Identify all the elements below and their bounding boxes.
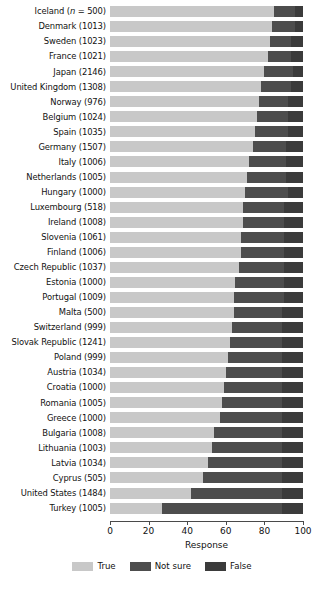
bar-segment-true — [110, 36, 270, 47]
chart-row: Poland (999) — [0, 350, 324, 365]
chart-row: Lithuania (1003) — [0, 440, 324, 455]
bar-segment-false — [295, 21, 303, 32]
x-axis-tick — [187, 521, 188, 525]
bar-segment-not-sure — [261, 81, 292, 92]
bar-segment-true — [110, 307, 234, 318]
bar-segment-not-sure — [162, 503, 282, 514]
chart-bar — [110, 141, 303, 152]
chart-row: Switzerland (999) — [0, 320, 324, 335]
chart-row-label: Luxembourg (518) — [0, 203, 110, 211]
chart-row-label: Sweden (1023) — [0, 37, 110, 45]
chart-bar — [110, 247, 303, 258]
bar-segment-false — [284, 217, 303, 228]
chart-row-label: Greece (1000) — [0, 414, 110, 422]
chart-row: Finland (1006) — [0, 245, 324, 260]
chart-row-label: Germany (1507) — [0, 143, 110, 151]
bar-segment-false — [284, 277, 303, 288]
chart-row: Slovak Republic (1241) — [0, 335, 324, 350]
bar-segment-false — [282, 367, 303, 378]
bar-segment-false — [293, 66, 303, 77]
chart-bar — [110, 352, 303, 363]
bar-segment-false — [288, 187, 303, 198]
x-axis-tick-label: 40 — [181, 527, 192, 536]
bar-segment-false — [291, 51, 303, 62]
bar-segment-not-sure — [243, 217, 284, 228]
chart-row-label: Spain (1035) — [0, 128, 110, 136]
chart-bar — [110, 111, 303, 122]
bar-segment-true — [110, 51, 268, 62]
chart-row: France (1021) — [0, 49, 324, 64]
chart-row-label: Slovenia (1061) — [0, 233, 110, 241]
bar-segment-true — [110, 442, 212, 453]
chart-row-label: Bulgaria (1008) — [0, 429, 110, 437]
bar-segment-not-sure — [239, 262, 283, 273]
bar-segment-false — [286, 172, 303, 183]
chart-row-label: United Kingdom (1308) — [0, 83, 110, 91]
bar-segment-false — [282, 442, 303, 453]
bar-segment-true — [110, 457, 208, 468]
x-axis-title: Response — [110, 540, 303, 550]
bar-segment-true — [110, 111, 257, 122]
bar-segment-not-sure — [234, 292, 284, 303]
chart-bar — [110, 412, 303, 423]
bar-segment-true — [110, 337, 230, 348]
x-axis-tick — [303, 521, 304, 525]
bar-segment-false — [282, 337, 303, 348]
chart-row-label: Netherlands (1005) — [0, 173, 110, 181]
bar-segment-not-sure — [255, 126, 288, 137]
chart-bar — [110, 187, 303, 198]
bar-segment-false — [282, 352, 303, 363]
chart-bar — [110, 457, 303, 468]
bar-segment-true — [110, 247, 241, 258]
bar-segment-false — [282, 503, 303, 514]
bar-segment-false — [282, 427, 303, 438]
bar-segment-true — [110, 382, 224, 393]
chart-row: Greece (1000) — [0, 410, 324, 425]
chart-bar — [110, 262, 303, 273]
bar-segment-true — [110, 397, 222, 408]
chart-bar — [110, 51, 303, 62]
bar-segment-false — [282, 412, 303, 423]
bar-segment-true — [110, 412, 220, 423]
chart-bar — [110, 172, 303, 183]
bar-segment-true — [110, 202, 243, 213]
chart-row: Austria (1034) — [0, 365, 324, 380]
bar-segment-false — [284, 202, 303, 213]
chart-row: Sweden (1023) — [0, 34, 324, 49]
bar-segment-true — [110, 141, 253, 152]
x-axis-tick — [226, 521, 227, 525]
chart-row: Germany (1507) — [0, 139, 324, 154]
chart-row: Denmark (1013) — [0, 19, 324, 34]
chart-bar — [110, 367, 303, 378]
chart-bar — [110, 442, 303, 453]
chart-row: Croatia (1000) — [0, 380, 324, 395]
chart-row-label: Switzerland (999) — [0, 323, 110, 331]
chart-row: Malta (500) — [0, 305, 324, 320]
legend-swatch-not-sure-icon — [130, 562, 151, 571]
legend-item-not-sure: Not sure — [130, 562, 191, 571]
chart-row-label: France (1021) — [0, 52, 110, 60]
chart-row-label: Finland (1006) — [0, 248, 110, 256]
bar-segment-not-sure — [208, 457, 281, 468]
bar-rows: Iceland (n = 500)Denmark (1013)Sweden (1… — [0, 4, 324, 516]
chart-bar — [110, 307, 303, 318]
chart-row: Spain (1035) — [0, 124, 324, 139]
chart-bar — [110, 6, 303, 17]
bar-segment-false — [295, 6, 303, 17]
chart-row-label: Turkey (1005) — [0, 504, 110, 512]
x-axis-tick-label: 100 — [294, 527, 311, 536]
x-axis-tick-label: 0 — [107, 527, 113, 536]
chart-bar — [110, 337, 303, 348]
bar-segment-not-sure — [249, 156, 286, 167]
legend-item-true: True — [72, 562, 115, 571]
chart-row: Latvia (1034) — [0, 455, 324, 470]
chart-bar — [110, 427, 303, 438]
chart-bar — [110, 21, 303, 32]
bar-segment-true — [110, 187, 245, 198]
chart-bar — [110, 202, 303, 213]
chart-row: Norway (976) — [0, 94, 324, 109]
x-axis-tick — [110, 521, 111, 525]
chart-bar — [110, 397, 303, 408]
chart-row: United Kingdom (1308) — [0, 79, 324, 94]
bar-segment-true — [110, 292, 234, 303]
